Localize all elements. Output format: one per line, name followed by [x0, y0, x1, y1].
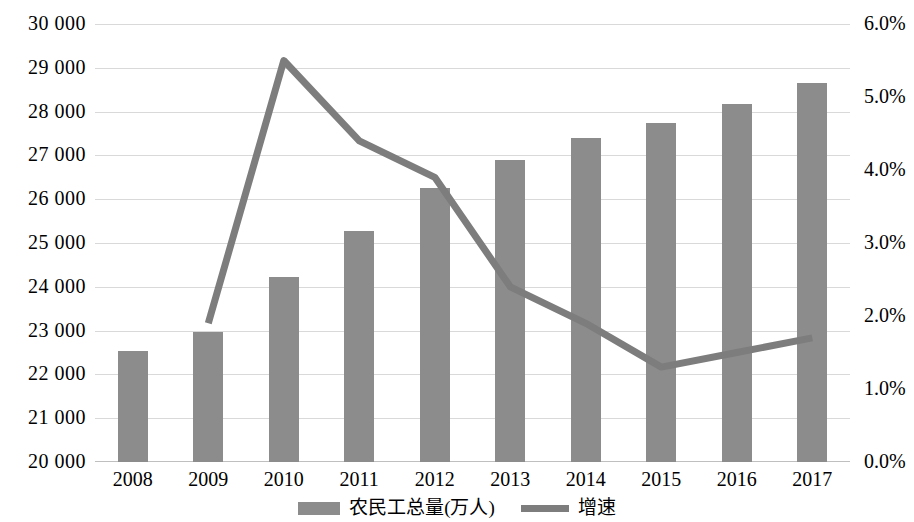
y2-axis-tick-label: 6.0% — [864, 13, 914, 33]
y-axis-tick-label: 24 000 — [0, 276, 86, 296]
line-series — [95, 24, 850, 462]
y-axis-tick-label: 28 000 — [0, 101, 86, 121]
legend-bar-swatch-icon — [298, 502, 340, 515]
x-axis-tick-label: 2010 — [246, 466, 322, 494]
y2-axis-tick-label: 4.0% — [864, 159, 914, 179]
y2-axis-tick-label: 1.0% — [864, 378, 914, 398]
x-axis-tick-label: 2009 — [171, 466, 247, 494]
x-axis-tick-label: 2012 — [397, 466, 473, 494]
y2-axis-tick-label: 3.0% — [864, 232, 914, 252]
x-axis-tick-label: 2016 — [699, 466, 775, 494]
legend-item[interactable]: 农民工总量(万人) — [298, 497, 495, 519]
y-axis-tick-label: 22 000 — [0, 363, 86, 383]
x-axis-tick-label: 2014 — [548, 466, 624, 494]
legend-label: 农民工总量(万人) — [349, 497, 495, 519]
y-axis-tick-label: 26 000 — [0, 188, 86, 208]
legend-line-swatch-icon — [521, 505, 569, 512]
line-path — [208, 61, 812, 368]
x-axis-tick-label: 2008 — [95, 466, 171, 494]
y-axis-tick-label: 20 000 — [0, 451, 86, 471]
x-axis-tick-label: 2015 — [624, 466, 700, 494]
y-axis-tick-label: 30 000 — [0, 13, 86, 33]
y-axis-tick-label: 29 000 — [0, 57, 86, 77]
y-axis-tick-label: 25 000 — [0, 232, 86, 252]
chart-container: 20 00021 00022 00023 00024 00025 00026 0… — [0, 0, 914, 522]
x-axis-tick-label: 2013 — [473, 466, 549, 494]
plot-area — [95, 24, 850, 462]
chart-legend: 农民工总量(万人)增速 — [0, 494, 914, 522]
x-axis-tick-label: 2011 — [322, 466, 398, 494]
legend-item[interactable]: 增速 — [521, 497, 616, 519]
x-axis-labels: 2008200920102011201220132014201520162017 — [95, 466, 850, 494]
y-axis-tick-label: 21 000 — [0, 407, 86, 427]
x-axis-tick-label: 2017 — [775, 466, 851, 494]
y2-axis-tick-label: 0.0% — [864, 451, 914, 471]
y-axis-tick-label: 23 000 — [0, 320, 86, 340]
y2-axis-tick-label: 2.0% — [864, 305, 914, 325]
legend-label: 增速 — [578, 497, 616, 519]
y2-axis-tick-label: 5.0% — [864, 86, 914, 106]
y-axis-tick-label: 27 000 — [0, 144, 86, 164]
